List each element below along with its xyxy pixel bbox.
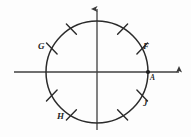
point-label-a: A	[150, 74, 155, 82]
tick-210	[47, 90, 58, 101]
point-label-h: H	[57, 112, 64, 121]
tick-150	[47, 43, 58, 54]
unit-circle-diagram	[0, 0, 191, 137]
point-label-j: J	[143, 99, 148, 108]
point-label-f: F	[143, 42, 149, 51]
point-label-g: G	[38, 42, 45, 51]
figure-canvas: G F A J H	[0, 0, 191, 137]
